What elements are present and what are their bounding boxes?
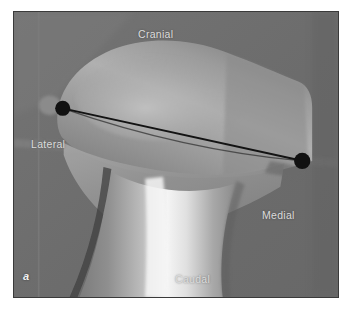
- radiograph-image: [14, 12, 338, 297]
- figure-root: Cranial Lateral Medial Caudal a: [0, 0, 352, 311]
- lateral-landmark-dot: [55, 101, 70, 116]
- medial-landmark-dot: [294, 153, 310, 169]
- right-soft-tissue-band: [312, 12, 338, 297]
- cortical-highlight: [145, 177, 168, 297]
- anatomy-canvas: [14, 12, 338, 297]
- radiograph-frame: Cranial Lateral Medial Caudal a: [13, 11, 339, 298]
